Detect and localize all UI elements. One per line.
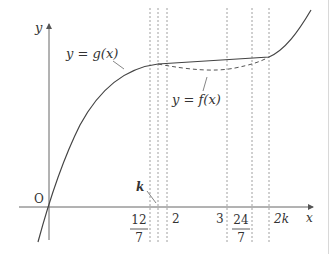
f-curve-label: y = f(x) <box>171 92 221 107</box>
y-axis-label: y <box>34 20 43 35</box>
tick-label-twenty-four-sevenths-den: 7 <box>237 231 245 245</box>
tick-label-two-k: 2k <box>273 212 289 226</box>
tick-label-two: 2 <box>172 212 180 226</box>
x-axis-label: x <box>306 211 313 225</box>
g-curve-label: y = g(x) <box>65 46 118 61</box>
tick-label-twelve-sevenths-den: 7 <box>135 231 143 245</box>
frame-border <box>328 0 329 254</box>
origin-label: O <box>34 192 44 206</box>
tick-twenty-four-sevenths: 24 7 <box>232 213 250 245</box>
tick-label-three: 3 <box>216 212 224 226</box>
tick-label-twenty-four-sevenths-num: 24 <box>233 213 249 227</box>
k-label: k <box>136 180 144 194</box>
function-graph: y x O y = g(x) y = f(x) k 12 7 2 3 24 7 … <box>0 0 331 254</box>
tick-twelve-sevenths: 12 7 <box>130 213 148 245</box>
k-label-leader <box>147 191 156 203</box>
f-label-leader <box>203 77 207 91</box>
g-label-leader <box>113 61 124 69</box>
tick-label-twelve-sevenths-num: 12 <box>131 213 146 227</box>
